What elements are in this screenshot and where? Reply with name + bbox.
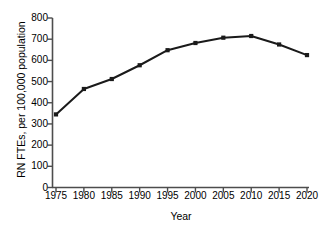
- data-point-marker: [54, 112, 58, 116]
- x-axis-tick-label: 2020: [290, 190, 324, 202]
- x-axis-title: Year: [52, 210, 310, 223]
- data-point-marker: [249, 34, 253, 38]
- axis-lines: [52, 18, 309, 188]
- data-point-marker: [138, 63, 142, 67]
- data-point-marker: [82, 87, 86, 91]
- data-point-marker: [305, 53, 309, 57]
- data-line-series: [56, 36, 307, 114]
- data-point-marker: [277, 42, 281, 46]
- chart-container: 0100200300400500600700800 19751980198519…: [0, 0, 329, 231]
- data-point-marker: [221, 36, 225, 40]
- data-point-marker: [193, 41, 197, 45]
- data-point-marker: [110, 77, 114, 81]
- data-point-marker: [165, 48, 169, 52]
- y-axis-title: RN FTEs, per 100,000 population: [14, 2, 28, 197]
